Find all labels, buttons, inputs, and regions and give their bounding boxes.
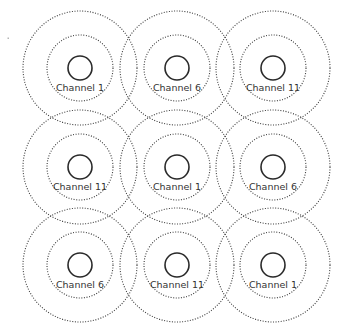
channel-label: Channel 6 — [153, 82, 201, 93]
cell-channel: Channel 1 — [56, 56, 104, 93]
cell-channel: Channel 6 — [249, 155, 297, 192]
coverage-outer-layer — [23, 11, 330, 322]
cell-channel: Channel 1 — [249, 253, 297, 290]
coverage-outer-ring — [216, 208, 330, 322]
channel-label: Channel 1 — [153, 181, 201, 192]
access-point-icon — [165, 253, 189, 277]
coverage-outer-ring — [23, 208, 137, 322]
speck — [8, 38, 10, 40]
cell-channel: Channel 6 — [56, 253, 104, 290]
access-point-icon — [68, 56, 92, 80]
access-point-icon — [68, 253, 92, 277]
coverage-inner-layer — [47, 35, 306, 298]
channel-reuse-diagram: Channel 1 Channel 6 Channel 11 Channel 1… — [0, 0, 348, 334]
access-point-icon — [261, 253, 285, 277]
access-point-icon — [261, 155, 285, 179]
coverage-outer-ring — [216, 11, 330, 125]
channel-label: Channel 1 — [249, 279, 297, 290]
channel-label: Channel 6 — [56, 279, 104, 290]
cell-channel: Channel 11 — [150, 253, 204, 290]
access-point-icon — [68, 155, 92, 179]
access-point-icon — [165, 155, 189, 179]
access-point-icon — [261, 56, 285, 80]
cell-channel: Channel 11 — [53, 155, 107, 192]
channel-label: Channel 11 — [246, 82, 300, 93]
coverage-outer-ring — [23, 11, 137, 125]
channel-label: Channel 11 — [150, 279, 204, 290]
cell-channel: Channel 11 — [246, 56, 300, 93]
channel-label: Channel 11 — [53, 181, 107, 192]
access-point-icon — [165, 56, 189, 80]
channel-label: Channel 1 — [56, 82, 104, 93]
coverage-outer-ring — [23, 110, 137, 224]
channel-label: Channel 6 — [249, 181, 297, 192]
cell-channel: Channel 1 — [153, 155, 201, 192]
coverage-outer-ring — [216, 110, 330, 224]
cell-channel: Channel 6 — [153, 56, 201, 93]
